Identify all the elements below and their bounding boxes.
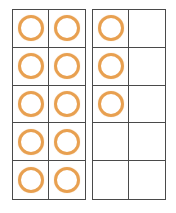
frame-cell	[13, 161, 49, 199]
frame-cell	[49, 161, 85, 199]
frame-cell	[49, 48, 85, 86]
frame-cell	[129, 161, 165, 199]
counter-circle-icon	[54, 91, 80, 117]
counter-circle-icon	[54, 15, 80, 41]
frame-cell	[93, 86, 129, 124]
frame-cell	[49, 10, 85, 48]
frame-cell	[13, 123, 49, 161]
frame-cell	[93, 10, 129, 48]
frame-cell	[93, 123, 129, 161]
counter-circle-icon	[98, 91, 124, 117]
frame-cell	[129, 123, 165, 161]
counter-circle-icon	[98, 53, 124, 79]
counter-circle-icon	[18, 53, 44, 79]
right-ten-frame	[92, 9, 166, 200]
frame-cell	[93, 48, 129, 86]
frame-cell	[93, 161, 129, 199]
counter-circle-icon	[54, 53, 80, 79]
counter-circle-icon	[98, 15, 124, 41]
frame-cell	[129, 10, 165, 48]
left-ten-frame	[12, 9, 86, 200]
counter-circle-icon	[18, 129, 44, 155]
frame-cell	[129, 48, 165, 86]
frame-cell	[49, 86, 85, 124]
counter-circle-icon	[54, 129, 80, 155]
frame-cell	[13, 48, 49, 86]
counter-circle-icon	[18, 15, 44, 41]
frame-cell	[13, 10, 49, 48]
counter-circle-icon	[18, 167, 44, 193]
counter-circle-icon	[54, 167, 80, 193]
frame-cell	[49, 123, 85, 161]
frame-cell	[129, 86, 165, 124]
counter-circle-icon	[18, 91, 44, 117]
frame-cell	[13, 86, 49, 124]
